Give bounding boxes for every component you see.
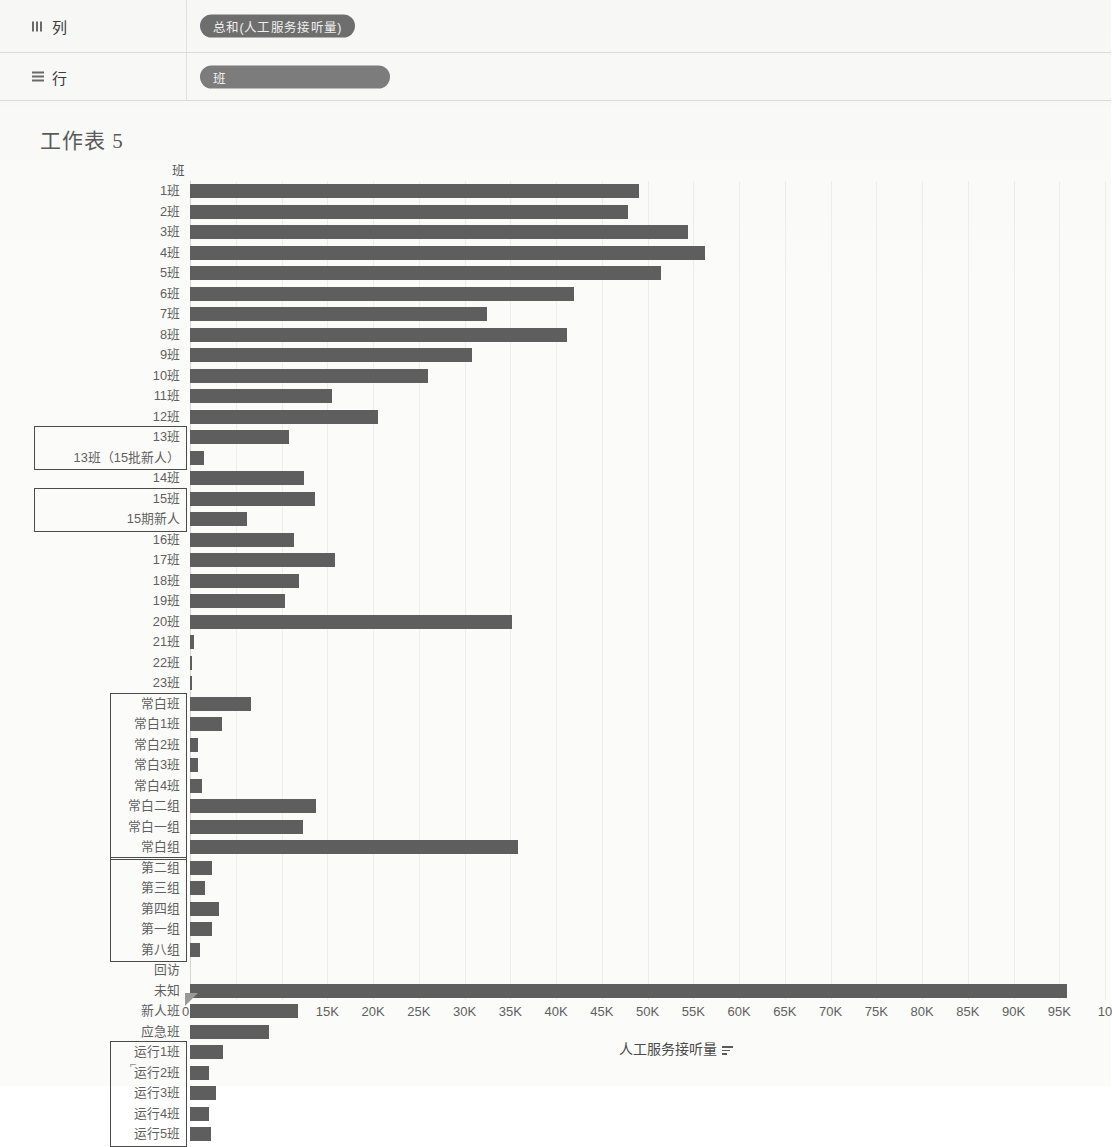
bar[interactable] — [190, 184, 639, 198]
columns-shelf[interactable]: 列 总和(人工服务接听量) — [0, 0, 1111, 53]
bar-row[interactable] — [190, 1124, 1105, 1145]
bar[interactable] — [190, 861, 212, 875]
bar[interactable] — [190, 533, 294, 547]
bar-row[interactable] — [190, 755, 1105, 776]
y-tick-label[interactable]: 回访 — [0, 960, 180, 981]
bar-row[interactable] — [190, 386, 1105, 407]
bar[interactable] — [190, 225, 688, 239]
bar[interactable] — [190, 922, 212, 936]
bar-row[interactable] — [190, 694, 1105, 715]
bar-row[interactable] — [190, 571, 1105, 592]
bar-row[interactable] — [190, 837, 1105, 858]
y-tick-label[interactable]: 14班 — [0, 468, 180, 489]
y-tick-label[interactable]: 17班 — [0, 550, 180, 571]
bar[interactable] — [190, 943, 200, 957]
x-axis-tick-labels[interactable]: 0K5K10K15K20K25K30K35K40K45K50K55K60K65K… — [190, 1000, 1105, 1034]
bar[interactable] — [190, 615, 512, 629]
bar-row[interactable] — [190, 940, 1105, 961]
bar-row[interactable] — [190, 202, 1105, 223]
bar[interactable] — [190, 697, 251, 711]
bar[interactable] — [190, 369, 428, 383]
bar-row[interactable] — [190, 796, 1105, 817]
bar-row[interactable] — [190, 366, 1105, 387]
bar-row[interactable] — [190, 345, 1105, 366]
bar[interactable] — [190, 451, 204, 465]
bar-row[interactable] — [190, 714, 1105, 735]
y-tick-label[interactable]: 新人班 — [0, 1001, 180, 1022]
bar-row[interactable] — [190, 1104, 1105, 1125]
y-tick-label[interactable]: 5班 — [0, 263, 180, 284]
bar-row[interactable] — [190, 325, 1105, 346]
bar-row[interactable] — [190, 653, 1105, 674]
bar-row[interactable] — [190, 1063, 1105, 1084]
bar[interactable] — [190, 881, 205, 895]
bar-row[interactable] — [190, 612, 1105, 633]
bar-row[interactable] — [190, 407, 1105, 428]
bar[interactable] — [190, 1127, 211, 1141]
bar[interactable] — [190, 266, 661, 280]
bar[interactable] — [190, 492, 315, 506]
y-tick-label[interactable]: 6班 — [0, 284, 180, 305]
y-tick-label[interactable]: 9班 — [0, 345, 180, 366]
pill-rows-dimension[interactable]: 班 — [200, 65, 390, 88]
bar[interactable] — [190, 471, 304, 485]
bar[interactable] — [190, 1107, 209, 1121]
bar-row[interactable] — [190, 181, 1105, 202]
rows-shelf[interactable]: 行 班 — [0, 53, 1111, 101]
bar-row[interactable] — [190, 817, 1105, 838]
bar[interactable] — [190, 512, 247, 526]
bar-row[interactable] — [190, 591, 1105, 612]
bar[interactable] — [190, 389, 332, 403]
y-tick-label[interactable]: 1班 — [0, 181, 180, 202]
bar[interactable] — [190, 287, 574, 301]
bar[interactable] — [190, 676, 192, 690]
bar[interactable] — [190, 820, 303, 834]
y-tick-label[interactable]: 18班 — [0, 571, 180, 592]
bar[interactable] — [190, 430, 289, 444]
bar[interactable] — [190, 205, 628, 219]
bar-row[interactable] — [190, 673, 1105, 694]
bar[interactable] — [190, 779, 202, 793]
y-tick-label[interactable]: 4班 — [0, 243, 180, 264]
bar-row[interactable] — [190, 1083, 1105, 1104]
bar-row[interactable] — [190, 489, 1105, 510]
y-tick-label[interactable]: 2班 — [0, 202, 180, 223]
y-tick-label[interactable]: 7班 — [0, 304, 180, 325]
y-tick-label[interactable]: 21班 — [0, 632, 180, 653]
bar[interactable] — [190, 1066, 209, 1080]
bar-row[interactable] — [190, 468, 1105, 489]
bar-row[interactable] — [190, 858, 1105, 879]
bar-row[interactable] — [190, 776, 1105, 797]
bar[interactable] — [190, 758, 198, 772]
bar[interactable] — [190, 984, 1067, 998]
bar-row[interactable] — [190, 960, 1105, 981]
bar-row[interactable] — [190, 304, 1105, 325]
bar[interactable] — [190, 246, 705, 260]
y-tick-label[interactable]: 11班 — [0, 386, 180, 407]
y-tick-label[interactable]: 22班 — [0, 653, 180, 674]
sort-icon[interactable] — [722, 1046, 733, 1055]
bar[interactable] — [190, 348, 472, 362]
bar-row[interactable] — [190, 243, 1105, 264]
bar[interactable] — [190, 799, 316, 813]
bar[interactable] — [190, 656, 192, 670]
bar[interactable] — [190, 902, 219, 916]
bar-row[interactable] — [190, 550, 1105, 571]
bar-row[interactable] — [190, 222, 1105, 243]
y-tick-label[interactable]: 20班 — [0, 612, 180, 633]
y-tick-label[interactable]: 23班 — [0, 673, 180, 694]
bar[interactable] — [190, 594, 285, 608]
y-tick-label[interactable]: 16班 — [0, 530, 180, 551]
bar-row[interactable] — [190, 448, 1105, 469]
bar-row[interactable] — [190, 530, 1105, 551]
bar-row[interactable] — [190, 263, 1105, 284]
bar[interactable] — [190, 717, 222, 731]
bar[interactable] — [190, 307, 487, 321]
bar[interactable] — [190, 738, 198, 752]
bar-row[interactable] — [190, 632, 1105, 653]
y-tick-label[interactable]: 未知 — [0, 981, 180, 1002]
y-tick-label[interactable]: 19班 — [0, 591, 180, 612]
bar-row[interactable] — [190, 981, 1105, 1002]
bar[interactable] — [190, 635, 194, 649]
bar[interactable] — [190, 1086, 216, 1100]
